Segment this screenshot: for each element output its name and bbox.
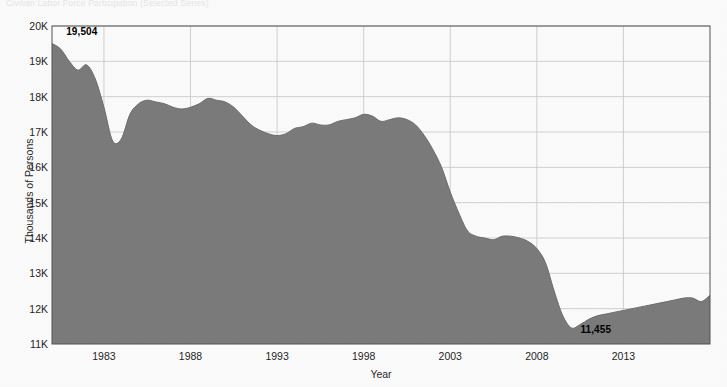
chart-figure: Civilian Labor Force Participation (Sele… bbox=[0, 0, 727, 387]
data-label-start-value: 19,504 bbox=[66, 26, 97, 37]
data-label-minimum-value: 11,455 bbox=[580, 324, 611, 335]
plot-area bbox=[0, 0, 727, 387]
